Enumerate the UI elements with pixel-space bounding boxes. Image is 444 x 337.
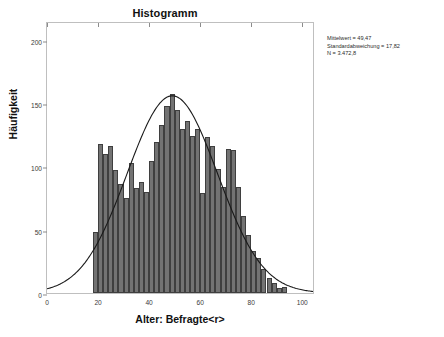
x-tick-mark bbox=[149, 23, 150, 27]
x-tick-mark bbox=[302, 23, 303, 27]
plot-area: 050100150200 020406080100 bbox=[46, 22, 314, 294]
y-tick-mark bbox=[43, 231, 47, 232]
mean-label: Mittelwert = 49,47 bbox=[327, 35, 441, 43]
sample-size-label: N = 3.472,8 bbox=[327, 50, 441, 58]
y-axis-title: Häufigkeit bbox=[7, 59, 19, 169]
x-tick-label: 40 bbox=[145, 293, 152, 306]
x-axis-title: Alter: Befragte<r> bbox=[46, 313, 314, 325]
x-tick-label: 0 bbox=[45, 293, 49, 306]
x-tick-mark bbox=[251, 23, 252, 27]
x-tick-label: 60 bbox=[196, 293, 203, 306]
x-tick-mark bbox=[200, 23, 201, 27]
histogram-bar bbox=[282, 287, 287, 293]
y-tick-mark bbox=[43, 105, 47, 106]
x-tick-label: 80 bbox=[248, 293, 255, 306]
y-tick-mark bbox=[43, 41, 47, 42]
y-tick-mark bbox=[43, 168, 47, 169]
statistics-annotation: Mittelwert = 49,47 Standardabweichung = … bbox=[327, 35, 441, 58]
standard-deviation-label: Standardabweichung = 17,82 bbox=[327, 43, 441, 51]
histogram-chart: Histogramm Mittelwert = 49,47 Standardab… bbox=[0, 0, 444, 337]
chart-title: Histogramm bbox=[0, 7, 330, 19]
plot-inner: 050100150200 020406080100 bbox=[47, 23, 313, 293]
x-tick-label: 100 bbox=[297, 293, 308, 306]
x-tick-mark bbox=[47, 23, 48, 27]
x-tick-label: 20 bbox=[94, 293, 101, 306]
x-tick-mark bbox=[98, 23, 99, 27]
